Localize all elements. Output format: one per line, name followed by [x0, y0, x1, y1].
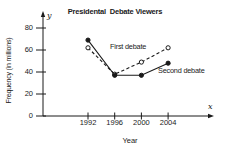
x-tick-label: 2004: [154, 119, 182, 127]
chart-panel: Presidental Debate Viewers Frequency (in…: [0, 0, 228, 156]
plot-area: [0, 0, 228, 156]
x-tick-label: 2000: [127, 119, 155, 127]
series-line-first-debate: [88, 48, 168, 74]
data-point-first-debate: [86, 46, 90, 50]
y-tick-label: 40: [17, 68, 33, 76]
data-point-second-debate: [86, 38, 90, 42]
y-tick-label: 0: [17, 112, 33, 120]
data-point-first-debate: [139, 60, 143, 64]
data-point-second-debate: [139, 73, 143, 77]
data-point-second-debate: [166, 61, 170, 65]
x-axis-arrow-icon: [208, 114, 214, 118]
y-tick-label: 60: [17, 46, 33, 54]
x-tick-label: 1992: [74, 119, 102, 127]
y-axis-arrow-icon: [41, 11, 45, 17]
data-point-second-debate: [113, 73, 117, 77]
series-line-second-debate: [88, 40, 168, 75]
y-tick-label: 20: [17, 90, 33, 98]
y-tick-label: 80: [17, 24, 33, 32]
data-point-first-debate: [166, 46, 170, 50]
x-tick-label: 1996: [101, 119, 129, 127]
